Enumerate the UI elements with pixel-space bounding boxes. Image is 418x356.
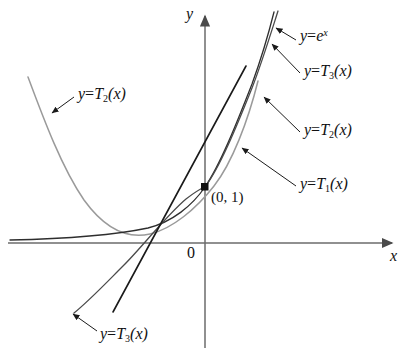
leader-t1-right [242,148,296,186]
leader-exp [276,28,296,40]
taylor-polynomial-figure: y x 0 (0, 1) y=ex y=T3(x) y=T2(x) y=T1(x… [0,0,418,356]
label-t3b-eq: = [107,325,116,342]
label-t3r-eq: = [311,62,320,79]
leader-t3-bottom [73,314,97,331]
label-t3b-arg: (x) [130,325,148,342]
tangency-point-dot [201,183,209,191]
label-t1r-arg: (x) [330,175,348,192]
label-t2r-base: T [320,121,329,138]
label-t3r-arg: (x) [334,62,352,79]
curve-t3 [74,11,278,313]
leader-t2-right [264,97,300,132]
label-t1-right: y=T1(x) [300,176,348,194]
label-exp: y=ex [300,28,328,44]
label-t2-left: y=T2(x) [78,86,126,104]
label-t2-right: y=T2(x) [304,122,352,140]
label-t3b-base: T [116,325,125,342]
label-t1r-base: T [316,175,325,192]
label-t2l-eq: = [85,85,94,102]
label-exp-sup: x [323,27,327,38]
point-coordinate-label: (0, 1) [211,190,244,205]
y-axis-label: y [186,6,193,22]
figure-canvas [0,0,418,356]
label-t3r-base: T [320,62,329,79]
origin-label: 0 [187,245,195,261]
label-t2l-base: T [94,85,103,102]
leader-lines [52,28,300,331]
label-t2r-eq: = [311,121,320,138]
label-exp-eq: = [307,27,316,44]
leader-t2-left [52,97,74,113]
label-t3-bottom: y=T3(x) [100,326,148,344]
x-axis-label: x [390,248,397,264]
label-t2l-arg: (x) [108,85,126,102]
leader-t3-right [272,44,300,73]
label-t3-right: y=T3(x) [304,63,352,81]
curve-exp [10,12,274,240]
label-t1r-eq: = [307,175,316,192]
label-t2r-arg: (x) [334,121,352,138]
